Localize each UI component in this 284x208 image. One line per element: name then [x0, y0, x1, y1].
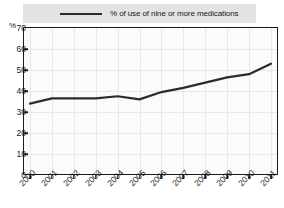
gridline-vertical — [30, 28, 31, 174]
line-chart: % of use of nine or more medications % 7… — [0, 0, 284, 208]
gridline-horizontal — [24, 154, 277, 155]
gridline-vertical — [271, 28, 272, 174]
gridline-horizontal — [24, 70, 277, 71]
legend-line-swatch — [60, 13, 102, 15]
chart-legend: % of use of nine or more medications — [23, 4, 256, 23]
y-axis-tick-mark — [23, 111, 28, 113]
gridline-vertical — [118, 28, 119, 174]
gridline-vertical — [205, 28, 206, 174]
y-axis-tick-mark — [23, 90, 28, 92]
gridline-horizontal — [24, 91, 277, 92]
y-axis-tick-mark — [23, 153, 28, 155]
gridline-vertical — [161, 28, 162, 174]
gridline-vertical — [74, 28, 75, 174]
plot-area — [23, 27, 278, 175]
gridline-vertical — [52, 28, 53, 174]
gridline-horizontal — [24, 112, 277, 113]
y-axis-tick-mark — [23, 132, 28, 134]
y-axis-tick-label: 70 — [0, 23, 26, 33]
gridline-vertical — [140, 28, 141, 174]
legend-label-medications: % of use of nine or more medications — [110, 9, 238, 18]
gridline-horizontal — [24, 133, 277, 134]
gridline-vertical — [227, 28, 228, 174]
y-axis-tick-mark — [23, 48, 28, 50]
y-axis-tick-mark — [23, 69, 28, 71]
gridline-vertical — [183, 28, 184, 174]
gridline-vertical — [96, 28, 97, 174]
gridline-vertical — [249, 28, 250, 174]
gridline-horizontal — [24, 49, 277, 50]
